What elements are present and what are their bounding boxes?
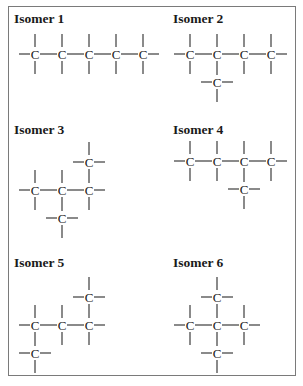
carbon-atom: C [267,154,276,169]
carbon-atom: C [58,211,67,226]
carbon-atom: C [58,183,67,198]
isomer-panel-1: Isomer 1CCCCC [14,11,159,74]
isomer-title: Isomer 3 [14,122,65,137]
carbon-atom: C [267,47,276,62]
carbon-atom: C [58,318,67,333]
isomer-title: Isomer 2 [173,11,224,26]
carbon-atom: C [240,47,249,62]
carbon-atom: C [31,47,40,62]
isomer-panel-3: Isomer 3CCCCC [14,122,105,238]
carbon-atom: C [213,346,222,361]
isomer-title: Isomer 1 [14,11,65,26]
isomer-title: Isomer 5 [14,255,65,270]
carbon-atom: C [112,47,121,62]
carbon-atom: C [213,47,222,62]
isomer-panel-5: Isomer 5CCCCC [14,255,105,373]
carbon-atom: C [240,182,249,197]
isomer-title: Isomer 6 [173,255,224,270]
carbon-atom: C [85,183,94,198]
isomer-title: Isomer 4 [173,122,224,137]
carbon-atom: C [186,47,195,62]
carbon-atom: C [240,154,249,169]
isomer-panel-2: Isomer 2CCCCC [173,11,287,102]
carbon-atom: C [31,183,40,198]
carbon-atom: C [85,318,94,333]
carbon-atom: C [85,47,94,62]
carbon-atom: C [186,154,195,169]
carbon-atom: C [31,318,40,333]
carbon-atom: C [240,318,249,333]
isomer-diagram: Isomer 1CCCCCIsomer 2CCCCCIsomer 3CCCCCI… [0,0,303,386]
isomer-panel-6: Isomer 6CCCCC [173,255,260,373]
carbon-atom: C [31,346,40,361]
carbon-atom: C [213,318,222,333]
carbon-atom: C [213,154,222,169]
carbon-atom: C [85,155,94,170]
carbon-atom: C [139,47,148,62]
carbon-atom: C [85,290,94,305]
carbon-atom: C [186,318,195,333]
carbon-atom: C [213,75,222,90]
carbon-atom: C [58,47,67,62]
isomer-panel-4: Isomer 4CCCCC [173,122,287,209]
carbon-atom: C [213,290,222,305]
